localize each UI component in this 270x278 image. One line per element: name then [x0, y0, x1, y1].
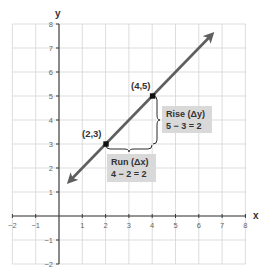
- y-tick-label: −1: [44, 236, 53, 245]
- y-tick-label: 1: [49, 188, 53, 197]
- x-tick-label: 3: [127, 221, 131, 230]
- y-tick-label: 5: [49, 92, 53, 101]
- point-4-5-label: (4,5): [131, 80, 151, 91]
- rise-label-line1: Rise (Δy): [166, 109, 205, 119]
- y-tick-label: −2: [44, 260, 53, 269]
- y-tick-label: 4: [49, 116, 53, 125]
- y-tick-label: 7: [49, 44, 53, 53]
- y-axis-title: y: [55, 8, 61, 19]
- x-tick-label: 6: [197, 221, 201, 230]
- x-tick-label: −1: [31, 221, 40, 230]
- y-axis-ticks: −2−112345678: [44, 20, 59, 269]
- point-4-5-marker: [150, 93, 155, 98]
- rise-label-line2: 5 − 3 = 2: [166, 121, 202, 131]
- y-tick-label: 6: [49, 68, 53, 77]
- point-2-3-marker: [103, 141, 108, 146]
- y-tick-label: 2: [49, 164, 53, 173]
- x-tick-label: −2: [8, 221, 17, 230]
- x-axis-title: x: [253, 210, 259, 221]
- run-label-line1: Run (Δx): [111, 157, 148, 167]
- y-tick-label: 8: [49, 20, 53, 29]
- run-label-line2: 4 − 2 = 2: [111, 169, 147, 179]
- x-tick-label: 1: [80, 221, 84, 230]
- x-tick-label: 8: [243, 221, 247, 230]
- coordinate-plane-chart: −2−112345678 −2−112345678 x y Run (Δx) 4…: [0, 0, 270, 278]
- x-tick-label: 2: [104, 221, 108, 230]
- point-2-3-label: (2,3): [82, 128, 102, 139]
- rise-label-box: Rise (Δy) 5 − 3 = 2: [162, 106, 212, 133]
- y-tick-label: 3: [49, 140, 53, 149]
- x-tick-label: 4: [150, 221, 154, 230]
- x-tick-label: 7: [220, 221, 224, 230]
- x-tick-label: 5: [173, 221, 177, 230]
- run-label-box: Run (Δx) 4 − 2 = 2: [107, 154, 156, 182]
